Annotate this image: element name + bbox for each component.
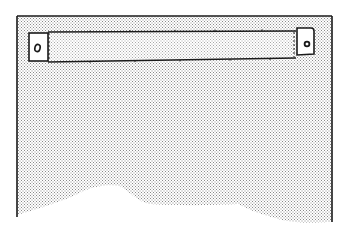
right-tab [297, 28, 314, 55]
panel-illustration [0, 0, 348, 240]
left-tab [29, 33, 48, 61]
strip [48, 29, 296, 63]
